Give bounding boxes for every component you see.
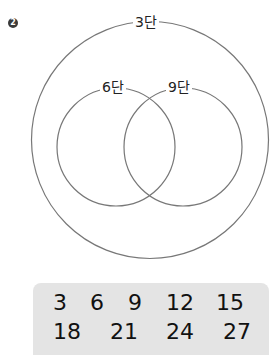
right-circle-label: 9단 [166, 79, 192, 95]
right-circle-9-dan [124, 88, 242, 206]
number-item: 27 [223, 320, 251, 344]
outer-circle-3-dan [32, 22, 269, 259]
left-circle-6-dan [57, 88, 175, 206]
number-item: 24 [166, 320, 194, 344]
number-item: 15 [216, 291, 244, 315]
number-choices-box: 3 6 9 12 15 18 21 24 27 [33, 283, 269, 355]
number-item: 18 [53, 320, 81, 344]
venn-diagram [0, 0, 273, 270]
left-circle-label: 6단 [100, 79, 126, 95]
number-item: 3 [53, 291, 67, 315]
outer-circle-label: 3단 [133, 14, 159, 30]
number-item: 6 [90, 291, 104, 315]
number-item: 21 [110, 320, 138, 344]
number-item: 12 [166, 291, 194, 315]
number-item: 9 [128, 291, 142, 315]
